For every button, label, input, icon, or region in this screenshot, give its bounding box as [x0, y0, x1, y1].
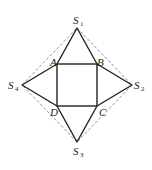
label-C: C	[99, 106, 107, 118]
base-square	[57, 64, 97, 106]
label-B: B	[97, 56, 104, 68]
svg-text:S: S	[8, 79, 14, 91]
dashed-outline	[22, 28, 132, 142]
svg-text:1: 1	[80, 20, 84, 28]
svg-text:2: 2	[141, 85, 145, 93]
svg-text:S: S	[73, 145, 79, 157]
label-S1: S 1	[73, 14, 84, 28]
label-D: D	[49, 106, 58, 118]
triangle-faces	[22, 28, 132, 142]
label-A: A	[49, 56, 57, 68]
pyramid-net-diagram: S 1 S 2 S 3 S 4 A B C D	[0, 0, 152, 170]
svg-text:3: 3	[80, 151, 84, 159]
label-S2: S 2	[134, 79, 145, 93]
label-S3: S 3	[73, 145, 84, 159]
svg-text:S: S	[73, 14, 79, 26]
svg-text:4: 4	[15, 85, 19, 93]
svg-text:S: S	[134, 79, 140, 91]
label-S4: S 4	[8, 79, 19, 93]
